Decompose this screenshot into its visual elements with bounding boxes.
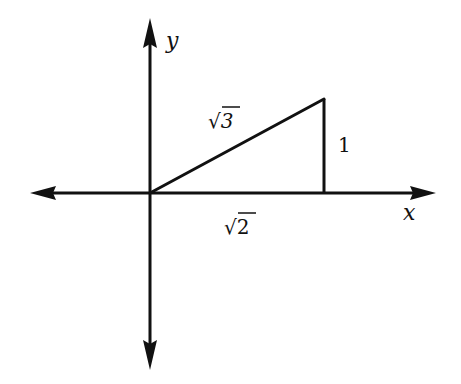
triangle-diagram: y x √3 1 √2 — [0, 0, 461, 384]
horizontal-leg-label-text: √2 — [224, 215, 249, 239]
x-axis-label: x — [403, 200, 416, 225]
hypotenuse — [150, 99, 324, 193]
x-axis-left-arrow-icon — [30, 186, 56, 200]
hypotenuse-label: √3 — [208, 107, 240, 133]
hypotenuse-label-text: √3 — [208, 109, 233, 133]
y-axis-label: y — [165, 28, 179, 53]
x-axis — [30, 186, 436, 200]
x-axis-right-arrow-icon — [410, 186, 436, 200]
y-axis-down-arrow-icon — [143, 340, 157, 370]
y-axis-up-arrow-icon — [143, 18, 157, 48]
right-triangle — [150, 99, 324, 193]
vertical-leg-label: 1 — [338, 133, 351, 157]
horizontal-leg-label: √2 — [224, 213, 256, 239]
